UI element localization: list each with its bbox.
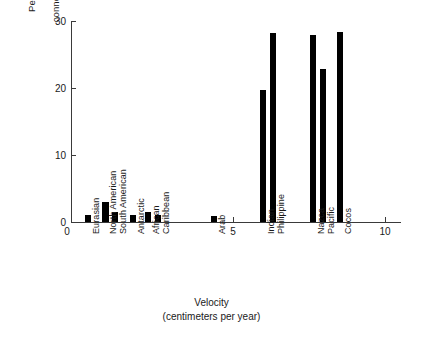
category-label-cocos: Cocos <box>343 208 353 234</box>
category-label-antarctic: Antarctic <box>136 198 146 234</box>
bar-pacific <box>320 69 326 222</box>
category-label-south-american: South American <box>118 169 128 234</box>
x-axis-title-units: (centimeters per year) <box>0 310 423 324</box>
category-label-african: African <box>151 205 161 234</box>
y-tick-label-30: 30 <box>44 16 66 27</box>
category-label-caribbean: Caribbean <box>161 192 171 234</box>
x-axis-title-main: Velocity <box>0 296 423 310</box>
x-tick-label-10: 10 <box>375 226 395 237</box>
y-tick-label-20: 20 <box>44 83 66 94</box>
bar-indian <box>260 90 266 222</box>
category-label-nazca: Nazca <box>316 208 326 234</box>
category-label-philippine: Philippine <box>276 194 286 234</box>
y-tick-30 <box>71 21 76 22</box>
category-label-north-american: North American <box>108 171 118 234</box>
x-axis-title: Velocity (centimeters per year) <box>0 296 423 324</box>
category-label-indian: Indian <box>266 209 276 234</box>
bar-cocos <box>337 32 343 222</box>
bar-chart: Percent of circumference connected to de… <box>0 0 423 337</box>
y-axis-line <box>71 21 72 223</box>
x-tick-label-0: 0 <box>57 226 77 237</box>
category-label-pacific: Pacific <box>326 207 336 234</box>
y-axis-title-line1: Percent of circumference <box>26 0 38 58</box>
x-tick-10 <box>385 217 386 222</box>
x-tick-5 <box>233 217 234 222</box>
y-tick-10 <box>71 155 76 156</box>
y-tick-label-10: 10 <box>44 150 66 161</box>
y-tick-20 <box>71 88 76 89</box>
y-axis-title: Percent of circumference connected to de… <box>14 0 54 58</box>
bar-nazca <box>310 35 316 222</box>
y-axis-title-line2: connected to descending slab <box>50 0 62 58</box>
category-label-eurasian: Eurasian <box>91 198 101 234</box>
category-label-arab: Arab <box>217 215 227 234</box>
